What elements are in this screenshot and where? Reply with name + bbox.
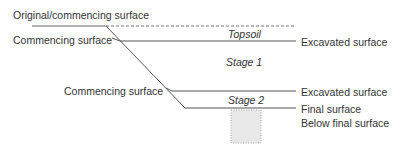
- stage2-label: Stage 2: [228, 94, 264, 106]
- commencing-surface-label-2: Commencing surface: [64, 85, 163, 97]
- topsoil-label: Topsoil: [228, 28, 261, 40]
- commencing-surface-label-1: Commencing surface: [13, 34, 112, 46]
- excavated-surface-label-1: Excavated surface: [301, 36, 387, 48]
- below-final-surface-label: Below final surface: [301, 117, 389, 129]
- below-final-surface-box: [231, 110, 261, 143]
- excavated-surface-label-2: Excavated surface: [301, 86, 387, 98]
- final-surface-label: Final surface: [301, 103, 361, 115]
- stage1-label: Stage 1: [226, 56, 262, 68]
- original-surface-label: Original/commencing surface: [13, 9, 149, 21]
